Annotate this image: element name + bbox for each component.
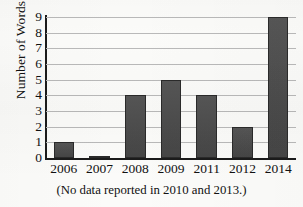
y-tick-label: 5 — [28, 73, 42, 87]
bar-slot — [125, 17, 146, 158]
bar-series — [46, 17, 296, 158]
bar-chart-figure: Number of Words 0123456789 2006200720082… — [0, 0, 303, 207]
x-tick-label: 2012 — [229, 161, 256, 177]
bar-slot — [161, 17, 182, 158]
y-tick-label: 2 — [28, 120, 42, 134]
bar-slot — [268, 17, 289, 158]
bar-slot — [232, 17, 253, 158]
x-tick-label: 2008 — [122, 161, 149, 177]
y-tick-label: 4 — [28, 89, 42, 103]
x-tick-label: 2014 — [265, 161, 292, 177]
x-tick-label: 2009 — [158, 161, 185, 177]
bar-slot — [54, 17, 75, 158]
y-tick-label: 9 — [28, 10, 42, 24]
y-tick-label: 7 — [28, 42, 42, 56]
y-tick-label: 6 — [28, 57, 42, 71]
y-tick-label: 3 — [28, 104, 42, 118]
bar — [89, 156, 110, 158]
bar-slot — [89, 17, 110, 158]
x-axis-tick-labels: 2006200720082009201120122014 — [46, 161, 296, 181]
axis-baseline — [46, 158, 296, 160]
bar — [161, 80, 182, 158]
bar-slot — [196, 17, 217, 158]
bar — [125, 95, 146, 158]
bar — [54, 142, 75, 158]
y-axis-tick-labels: 0123456789 — [26, 0, 42, 207]
x-tick-label: 2011 — [193, 161, 220, 177]
bar — [268, 17, 289, 158]
y-tick-label: 1 — [28, 136, 42, 150]
y-tick-label: 8 — [28, 26, 42, 40]
y-tick-label: 0 — [28, 151, 42, 165]
chart-caption: (No data reported in 2010 and 2013.) — [0, 183, 303, 198]
plot-area — [46, 17, 296, 158]
bar — [232, 127, 253, 158]
x-tick-label: 2006 — [50, 161, 77, 177]
bar — [196, 95, 217, 158]
x-tick-label: 2007 — [86, 161, 113, 177]
